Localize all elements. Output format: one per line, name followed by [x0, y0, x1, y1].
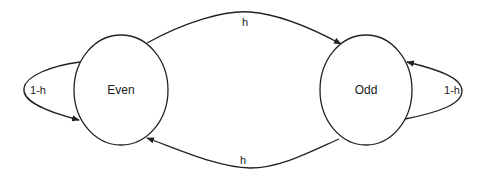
edge-odd-to-even-label: h: [240, 154, 246, 166]
state-even-label: Even: [107, 83, 134, 97]
edge-odd-self-loop-label: 1-h: [444, 84, 460, 96]
state-diagram: h h 1-h 1-h Even Odd: [0, 0, 484, 178]
state-odd-label: Odd: [355, 83, 378, 97]
state-even: Even: [74, 35, 168, 145]
edge-even-self-loop-label: 1-h: [30, 84, 46, 96]
state-odd: Odd: [320, 35, 412, 145]
edge-even-to-odd-label: h: [242, 16, 248, 28]
